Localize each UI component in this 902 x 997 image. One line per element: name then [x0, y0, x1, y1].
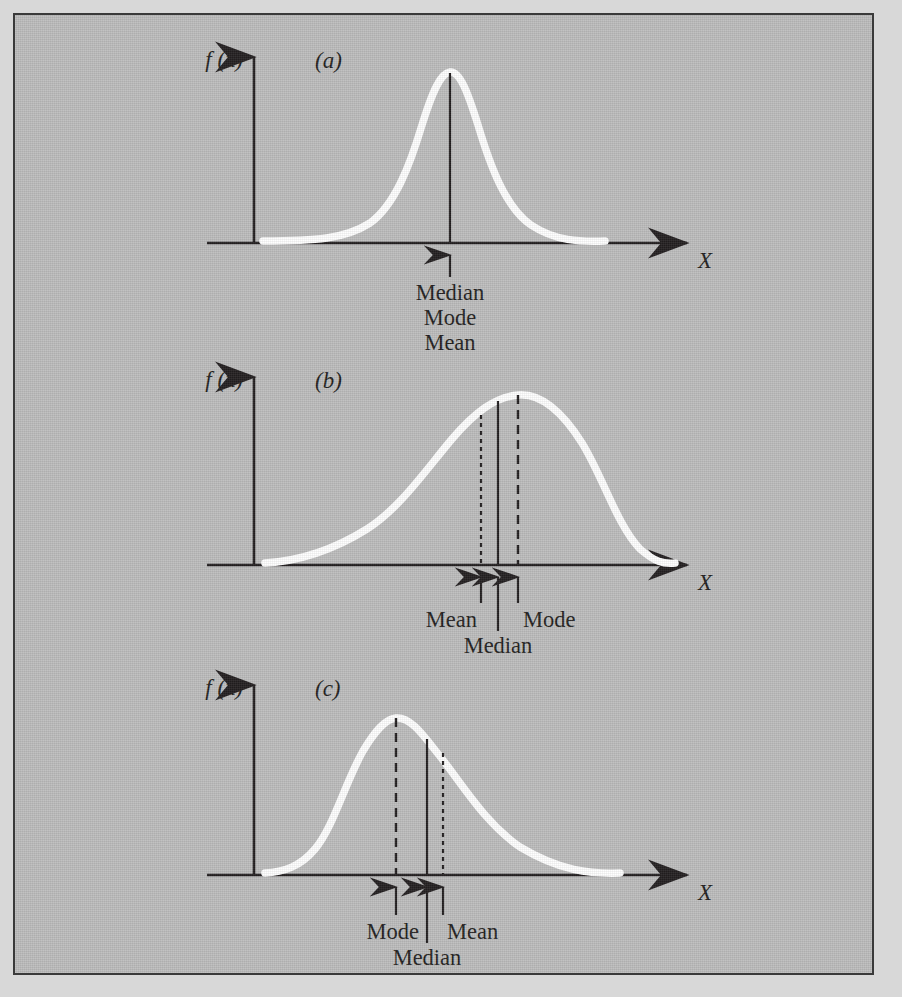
panel-tag-a: (a)	[315, 48, 342, 73]
figure-frame: Median Mode Mean f (x) X (a) Mean Mode M…	[13, 13, 874, 975]
y-axis-label-b: f (x)	[205, 367, 243, 392]
y-axis-label-a: f (x)	[205, 47, 243, 72]
panel-c-plot: Mode Mean Median f (x) X (c)	[15, 643, 876, 973]
panel-a: Median Mode Mean f (x) X (a)	[15, 15, 876, 345]
stat-label-mode-c: Mode	[367, 919, 420, 944]
density-curve-a	[263, 72, 605, 241]
x-axis-label-a: X	[697, 248, 713, 273]
panel-c: Mode Mean Median f (x) X (c)	[15, 643, 876, 973]
panel-a-plot: Median Mode Mean f (x) X (a)	[15, 15, 876, 345]
panel-tag-b: (b)	[315, 368, 342, 393]
stat-label-mean-b: Mean	[426, 607, 477, 632]
density-curve-b	[265, 395, 675, 563]
panel-tag-c: (c)	[315, 676, 341, 701]
y-axis-label-c: f (x)	[205, 675, 243, 700]
stat-label-mean-c: Mean	[447, 919, 498, 944]
panel-b-plot: Mean Mode Median f (x) X (b)	[15, 335, 876, 655]
stat-label-median-a: Median	[416, 280, 485, 305]
panel-b: Mean Mode Median f (x) X (b)	[15, 335, 876, 655]
stat-label-mode-a: Mode	[424, 305, 477, 330]
x-axis-label-c: X	[697, 880, 713, 905]
x-axis-label-b: X	[697, 570, 713, 595]
stat-label-mode-b: Mode	[523, 607, 576, 632]
stat-label-median-c: Median	[393, 945, 462, 970]
